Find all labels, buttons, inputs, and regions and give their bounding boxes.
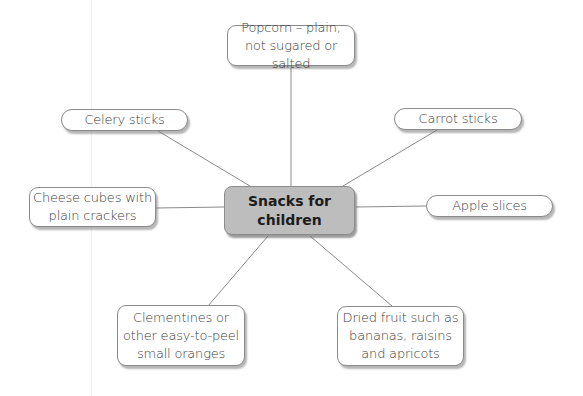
central-topic-node: Snacks for children	[224, 186, 355, 235]
node-dried-fruit-label: Dried fruit such as bananas, raisins and…	[342, 309, 460, 363]
node-dried-fruit: Dried fruit such as bananas, raisins and…	[337, 306, 464, 366]
connector-cheese	[156, 207, 224, 208]
node-carrot: Carrot sticks	[394, 108, 522, 130]
node-celery: Celery sticks	[61, 109, 188, 131]
connector-carrot	[343, 130, 437, 186]
node-cheese-label: Cheese cubes with plain crackers	[33, 189, 153, 225]
node-popcorn-label: Popcorn – plain, not sugared or salted	[229, 19, 353, 73]
node-celery-label: Celery sticks	[84, 111, 164, 129]
connector-dried-fruit	[310, 236, 392, 306]
node-popcorn: Popcorn – plain, not sugared or salted	[227, 25, 355, 66]
central-topic-label: Snacks for children	[245, 192, 335, 230]
node-apple-label: Apple slices	[452, 197, 527, 215]
node-apple: Apple slices	[426, 195, 553, 217]
node-carrot-label: Carrot sticks	[419, 110, 498, 128]
node-clementines-label: Clementines or other easy-to-peel small …	[119, 309, 243, 363]
node-clementines: Clementines or other easy-to-peel small …	[117, 305, 245, 366]
connector-clementines	[208, 236, 268, 306]
node-cheese: Cheese cubes with plain crackers	[29, 187, 156, 227]
connector-celery	[158, 131, 250, 186]
connector-apple	[356, 206, 426, 207]
